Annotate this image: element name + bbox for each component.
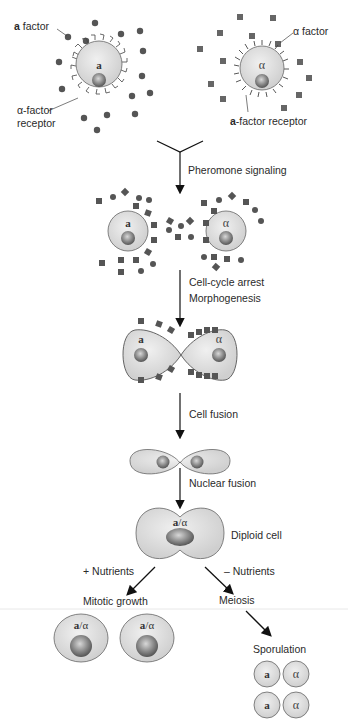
a-cell-label: a — [96, 59, 102, 71]
diploid-cell-label: a/α — [173, 516, 188, 528]
svg-text:a/α: a/α — [74, 619, 89, 631]
svg-text:α: α — [223, 216, 230, 230]
nucleus — [255, 74, 269, 88]
svg-text:a/α: a/α — [140, 619, 155, 631]
a-receptor-label: a-factor receptor — [230, 115, 308, 127]
minus-nutrients-label: – Nutrients — [224, 565, 275, 577]
a-factor-label: a factor — [14, 20, 50, 32]
leader-line — [246, 95, 248, 112]
leader-line — [280, 33, 293, 43]
pheromone-signaling-label: Pheromone signaling — [188, 164, 287, 176]
svg-text:a: a — [125, 217, 131, 229]
a-cell-group: a — [56, 20, 153, 133]
stage-signaling: a α — [96, 188, 264, 275]
morphogenesis-label: Morphogenesis — [189, 292, 261, 304]
nuclear-fusion-label: Nuclear fusion — [189, 477, 256, 489]
alpha-cell-label: α — [259, 58, 266, 72]
nucleus — [92, 73, 106, 87]
svg-text:α: α — [293, 667, 300, 681]
stage-shmoo: a α — [123, 318, 237, 383]
diploid-cell-caption: Diploid cell — [231, 529, 282, 541]
mating-diagram: a a factor α-factor receptor α α factor … — [0, 0, 348, 728]
svg-text:a: a — [138, 333, 144, 345]
svg-text:α: α — [293, 698, 300, 712]
alpha-receptor-label-2: receptor — [17, 117, 56, 129]
arrow-sporulation — [246, 611, 270, 635]
mitotic-cells: a/α a/α — [54, 614, 174, 662]
plus-nutrients-label: + Nutrients — [83, 565, 134, 577]
leader-line — [57, 29, 67, 36]
cell-cycle-arrest-label: Cell-cycle arrest — [189, 276, 264, 288]
alpha-receptor-label-1: α-factor — [17, 104, 53, 116]
meiosis-label: Meiosis — [219, 594, 255, 606]
nucleus — [191, 456, 204, 469]
spores: a α a α — [254, 661, 309, 718]
svg-text:α: α — [216, 332, 223, 346]
svg-text:a: a — [264, 668, 270, 680]
mitotic-growth-label: Mitotic growth — [83, 595, 148, 607]
svg-text:a: a — [264, 699, 270, 711]
alpha-factor-label: α factor — [293, 25, 329, 37]
cell-fusion-label: Cell fusion — [189, 408, 238, 420]
sporulation-label: Sporulation — [253, 643, 306, 655]
nucleus — [166, 528, 194, 546]
nucleus — [157, 456, 170, 469]
